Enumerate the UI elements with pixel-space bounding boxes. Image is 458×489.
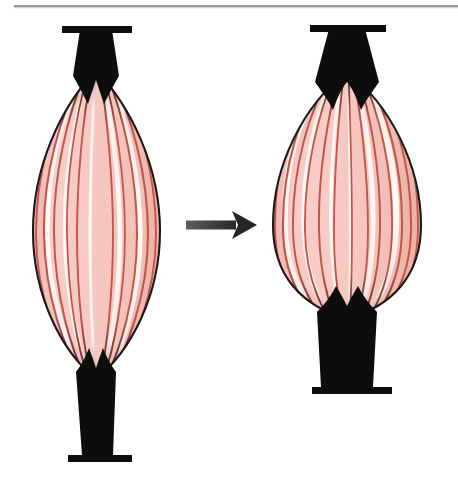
- superior-attachment-plate: [62, 26, 132, 33]
- inferior-attachment-plate: [312, 387, 392, 394]
- fascicle-group: [36, 60, 156, 388]
- figure-canvas: [0, 0, 458, 489]
- inferior-tendon: [68, 348, 132, 462]
- muscle-contraction-figure: Relaxed muscle Elongated fusiform muscle…: [0, 0, 458, 489]
- superior-attachment-plate: [310, 25, 386, 32]
- relaxed-muscle-panel: [33, 26, 160, 462]
- contracted-muscle-panel: [273, 25, 421, 394]
- top-horizontal-rule: [14, 5, 458, 8]
- transition-arrow: [186, 211, 257, 239]
- inferior-attachment-plate: [68, 455, 132, 462]
